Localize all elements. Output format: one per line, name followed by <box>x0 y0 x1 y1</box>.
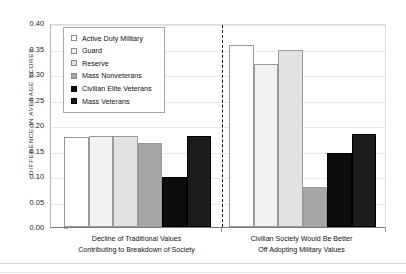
x-axis-group-label: Decline of Traditional ValuesContributin… <box>47 234 227 255</box>
bar <box>187 136 212 227</box>
legend-item[interactable]: Civilian Elite Veterans <box>68 82 160 95</box>
x-axis-group-label: Civilian Society Would Be BetterOff Adop… <box>212 234 392 255</box>
legend-swatch-icon <box>71 98 77 104</box>
x-axis-tick-mark <box>385 228 386 232</box>
legend-item-label: Reserve <box>82 60 109 67</box>
legend-item-label: Guard <box>82 47 102 54</box>
y-axis-tick-label: 0.00 <box>18 224 44 231</box>
bar <box>303 187 328 227</box>
chart-legend: Active Duty MilitaryGuardReserveMass Non… <box>63 27 165 113</box>
y-axis-tick-label: 0.25 <box>18 97 44 104</box>
bar <box>254 64 279 227</box>
bar <box>89 136 114 227</box>
x-axis-group-label-line: Decline of Traditional Values <box>47 234 227 245</box>
y-axis-tick-label: 0.40 <box>18 20 44 27</box>
y-axis-tick-label: 0.10 <box>18 173 44 180</box>
y-axis-tick-label: 0.15 <box>18 148 44 155</box>
legend-swatch-icon <box>71 35 77 41</box>
bottom-rule <box>0 263 406 264</box>
legend-item[interactable]: Reserve <box>68 57 160 70</box>
x-axis-group-label-line: Civilian Society Would Be Better <box>212 234 392 245</box>
legend-swatch-icon <box>71 86 77 92</box>
bar <box>64 137 89 227</box>
bar <box>352 134 377 227</box>
bar <box>327 153 352 227</box>
legend-item[interactable]: Guard <box>68 45 160 58</box>
bar <box>278 50 303 227</box>
y-axis-tick-label: 0.30 <box>18 71 44 78</box>
bar <box>138 143 163 227</box>
gridline <box>51 25 385 26</box>
bar <box>162 177 187 227</box>
group-divider-line <box>222 25 223 227</box>
gridline <box>51 127 385 128</box>
legend-swatch-icon <box>71 73 77 79</box>
bar-chart-figure: Difference in Average Scores 0.400.350.3… <box>0 0 406 274</box>
x-axis-group-label-line: Contributing to Breakdown of Society <box>47 245 227 256</box>
legend-item[interactable]: Mass Veterans <box>68 95 160 108</box>
y-axis-tick-mark <box>64 228 68 229</box>
legend-item[interactable]: Active Duty Military <box>68 32 160 45</box>
x-axis-group-label-line: Off Adopting Military Values <box>212 245 392 256</box>
legend-item-label: Civilian Elite Veterans <box>82 85 152 92</box>
legend-swatch-icon <box>71 60 77 66</box>
y-axis-tick-labels: 0.400.350.300.250.200.150.100.050.00 <box>18 0 44 274</box>
y-axis-tick-label: 0.35 <box>18 46 44 53</box>
bar <box>113 136 138 227</box>
legend-swatch-icon <box>71 48 77 54</box>
legend-item-label: Mass Veterans <box>82 98 130 105</box>
legend-item[interactable]: Mass Nonveterans <box>68 70 160 83</box>
bottom-rule-secondary <box>0 272 406 273</box>
y-axis-tick-label: 0.05 <box>18 199 44 206</box>
x-axis-tick-mark <box>221 228 222 232</box>
bar <box>229 45 254 227</box>
y-axis-tick-label: 0.20 <box>18 122 44 129</box>
legend-item-label: Active Duty Military <box>82 35 143 42</box>
legend-item-label: Mass Nonveterans <box>82 72 142 79</box>
